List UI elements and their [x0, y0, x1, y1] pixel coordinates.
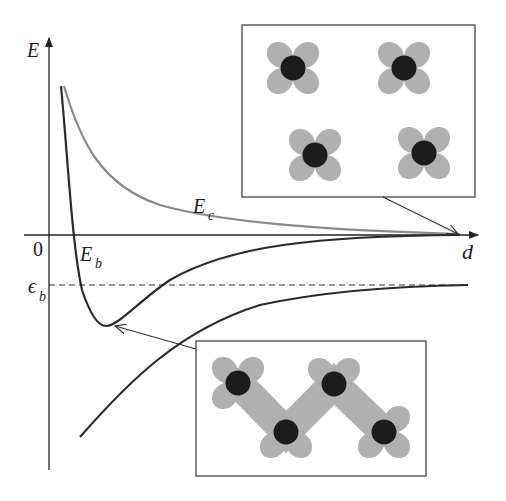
- epsilon-b-label: ϵ b: [28, 275, 46, 304]
- svg-text:b: b: [39, 289, 46, 304]
- e-b-label: E b: [79, 243, 102, 271]
- origin-label: 0: [33, 238, 43, 260]
- bottom-inset-pointer-arrow: [115, 326, 196, 349]
- svg-text:E: E: [192, 195, 205, 217]
- svg-text:b: b: [95, 256, 102, 271]
- y-axis-label: E: [26, 39, 39, 61]
- chain-inset: [196, 341, 426, 476]
- svg-text:c: c: [208, 208, 215, 223]
- square-lattice-inset: [242, 25, 475, 197]
- energy-diagram: E d 0 E c E b ϵ b: [0, 0, 506, 501]
- svg-text:ϵ: ϵ: [28, 275, 37, 297]
- top-inset-pointer-arrow: [383, 197, 458, 234]
- e-c-label: E c: [192, 195, 215, 223]
- x-axis-label: d: [462, 239, 474, 264]
- svg-text:E: E: [79, 243, 92, 265]
